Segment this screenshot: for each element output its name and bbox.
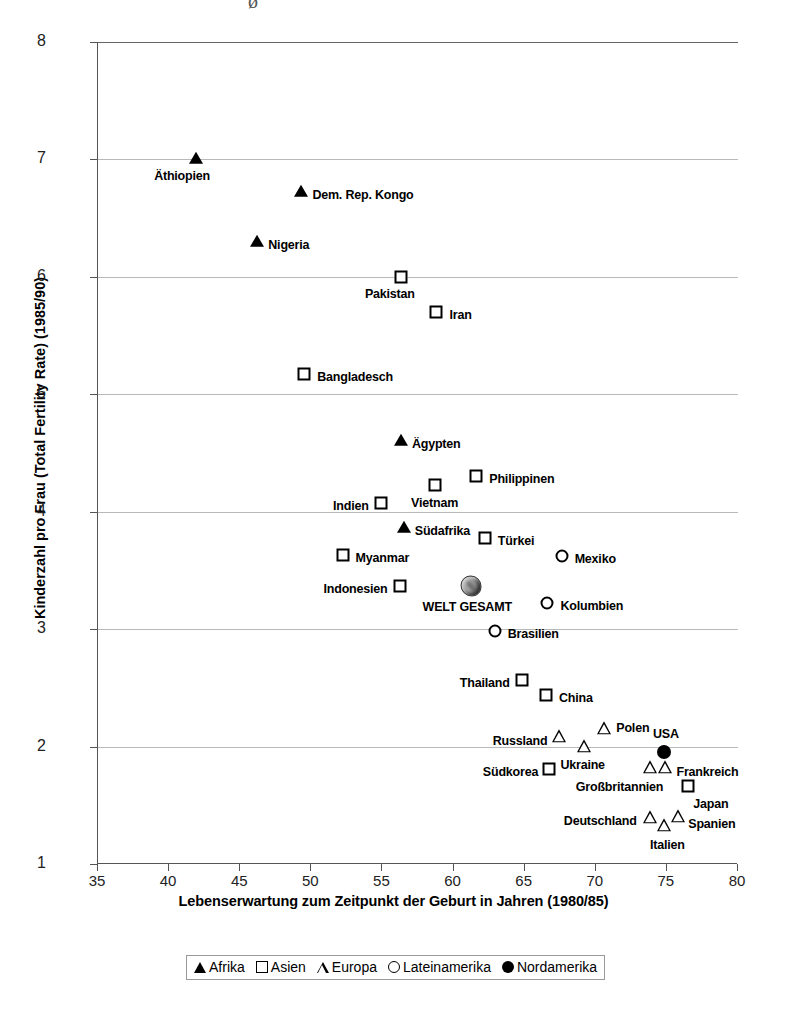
legend-label: Nordamerika <box>517 959 597 975</box>
x-tick-label: 45 <box>209 872 269 889</box>
legend-open-square-icon <box>256 961 268 973</box>
gridline <box>98 512 738 513</box>
data-point-label: Myanmar <box>356 552 409 565</box>
data-point-label: Äthiopien <box>154 170 210 183</box>
marker-open-triangle-icon <box>577 739 591 752</box>
marker-open-triangle-icon <box>658 760 672 773</box>
plot-area: ÄthiopienDem. Rep. KongoNigeriaÄgyptenSü… <box>97 42 737 864</box>
data-point-label: Philippinen <box>489 473 554 486</box>
x-tick-label: 50 <box>280 872 340 889</box>
y-tick-mark <box>90 864 97 865</box>
data-point-label: Indien <box>333 500 369 513</box>
y-tick-label: 2 <box>6 737 46 755</box>
marker-open-square-icon <box>430 306 443 319</box>
data-point-label: Dem. Rep. Kongo <box>312 189 413 202</box>
legend-item[interactable]: Afrika <box>194 959 245 975</box>
legend-open-triangle-icon <box>317 962 329 973</box>
y-tick-label: 6 <box>6 267 46 285</box>
data-point-label: Russland <box>493 735 548 748</box>
x-tick-label: 70 <box>565 872 625 889</box>
data-point-label: WELT GESAMT <box>423 601 512 614</box>
gridline <box>98 394 738 395</box>
y-tick-label: 7 <box>6 149 46 167</box>
marker-open-circle-icon <box>541 597 554 610</box>
marker-globe-icon <box>460 575 481 596</box>
marker-open-triangle-icon <box>657 819 671 832</box>
y-tick-mark <box>90 747 97 748</box>
x-tick-label: 65 <box>494 872 554 889</box>
data-point-label: Italien <box>650 839 685 852</box>
data-point-label: Südkorea <box>483 766 538 779</box>
x-tick-mark <box>381 864 382 871</box>
gridline <box>98 747 738 748</box>
x-tick-mark <box>310 864 311 871</box>
data-point-label: Pakistan <box>365 288 415 301</box>
legend-label: Lateinamerika <box>403 959 491 975</box>
data-point-label: Türkei <box>498 535 534 548</box>
x-axis-title: Lebenserwartung zum Zeitpunkt der Geburt… <box>0 893 787 909</box>
y-tick-label: 8 <box>6 32 46 50</box>
legend-item[interactable]: Lateinamerika <box>388 959 491 975</box>
chart-legend: AfrikaAsienEuropaLateinamerikaNordamerik… <box>186 955 605 980</box>
marker-open-triangle-icon <box>552 729 566 742</box>
marker-open-triangle-icon <box>597 721 611 734</box>
marker-open-square-icon <box>540 688 553 701</box>
x-tick-mark <box>666 864 667 871</box>
x-tick-label: 35 <box>67 872 127 889</box>
marker-filled-triangle-icon <box>394 434 408 446</box>
legend-label: Afrika <box>209 959 245 975</box>
y-tick-label: 5 <box>6 384 46 402</box>
marker-open-square-icon <box>393 579 406 592</box>
legend-item[interactable]: Nordamerika <box>502 959 597 975</box>
marker-open-square-icon <box>394 270 407 283</box>
marker-open-square-icon <box>336 549 349 562</box>
legend-label: Europa <box>332 959 377 975</box>
x-tick-mark <box>524 864 525 871</box>
x-tick-label: 80 <box>707 872 767 889</box>
data-point-label: Indonesien <box>324 583 388 596</box>
legend-filled-circle-icon <box>502 961 514 973</box>
marker-open-square-icon <box>298 368 311 381</box>
legend-item[interactable]: Asien <box>256 959 306 975</box>
marker-filled-triangle-icon <box>250 234 264 246</box>
legend-item[interactable]: Europa <box>317 959 377 975</box>
marker-open-square-icon <box>429 478 442 491</box>
x-tick-mark <box>168 864 169 871</box>
data-point-label: Thailand <box>460 677 510 690</box>
marker-open-circle-icon <box>488 625 501 638</box>
legend-label: Asien <box>271 959 306 975</box>
data-point-label: Nigeria <box>268 239 309 252</box>
marker-open-square-icon <box>682 780 695 793</box>
y-tick-mark <box>90 42 97 43</box>
marker-filled-triangle-icon <box>189 152 203 164</box>
y-tick-label: 3 <box>6 619 46 637</box>
y-tick-mark <box>90 159 97 160</box>
marker-open-square-icon <box>542 762 555 775</box>
data-point-label: USA <box>653 728 679 741</box>
y-tick-mark <box>90 394 97 395</box>
data-point-label: Ukraine <box>560 759 604 772</box>
marker-filled-triangle-icon <box>397 521 411 533</box>
x-tick-mark <box>453 864 454 871</box>
x-tick-mark <box>97 864 98 871</box>
data-point-label: Japan <box>693 798 728 811</box>
data-point-label: China <box>559 692 593 705</box>
marker-open-triangle-icon <box>643 810 657 823</box>
marker-open-triangle-icon <box>671 809 685 822</box>
marker-filled-circle-icon <box>657 745 671 759</box>
marker-open-triangle-icon <box>643 760 657 773</box>
gridline <box>98 42 738 43</box>
x-tick-label: 40 <box>138 872 198 889</box>
data-point-label: Ägypten <box>412 438 461 451</box>
y-tick-mark <box>90 277 97 278</box>
x-tick-mark <box>737 864 738 871</box>
legend-items: AfrikaAsienEuropaLateinamerikaNordamerik… <box>194 959 597 975</box>
y-tick-mark <box>90 629 97 630</box>
page-artifact: ø <box>248 0 258 13</box>
marker-open-square-icon <box>375 497 388 510</box>
gridline <box>98 629 738 630</box>
data-point-label: Spanien <box>688 818 735 831</box>
legend-open-circle-icon <box>388 961 400 973</box>
x-tick-mark <box>239 864 240 871</box>
data-point-label: Iran <box>449 309 471 322</box>
